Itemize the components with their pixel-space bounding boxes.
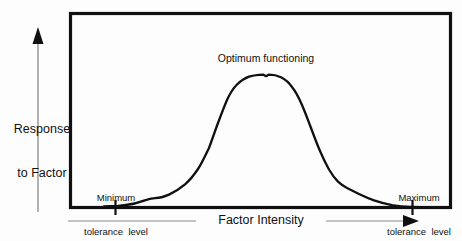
x-axis-label: Factor Intensity [196, 213, 326, 228]
figure-bell-curve-response-to-factor: Response to Factor Factor Intensity Opti… [0, 0, 462, 241]
y-axis-label-line1: Response [6, 122, 78, 137]
maximum-label-line2: tolerance level [376, 226, 462, 237]
annotation-maximum-tolerance-level: Maximum tolerance level [376, 170, 462, 241]
y-axis-label: Response to Factor [6, 92, 78, 210]
y-axis-label-line2: to Factor [6, 166, 78, 181]
maximum-label-line1: Maximum [376, 192, 462, 203]
minimum-label-line2: tolerance level [73, 226, 159, 237]
annotation-optimum-functioning: Optimum functioning [200, 52, 332, 64]
annotation-minimum-tolerance-level: Minimum tolerance level [73, 170, 159, 241]
minimum-label-line1: Minimum [73, 192, 159, 203]
